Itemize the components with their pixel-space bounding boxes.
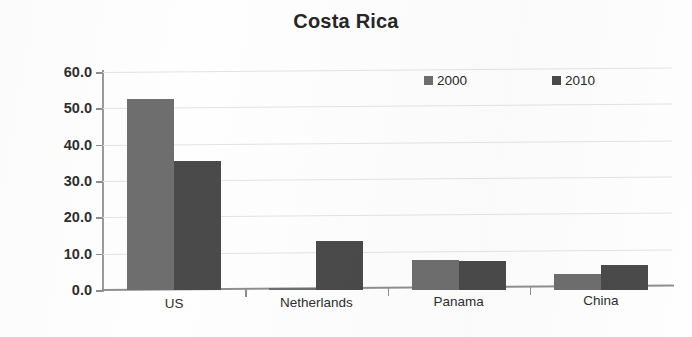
legend-swatch-icon [552, 76, 561, 85]
bar-us-2010 [174, 161, 221, 290]
legend-label: 2000 [437, 73, 467, 88]
x-axis-label-us: US [165, 296, 184, 311]
gridline [103, 140, 672, 145]
plot-area [103, 72, 672, 290]
bar-china-2010 [601, 265, 648, 290]
y-axis-tick-label: 40.0 [40, 137, 92, 153]
x-axis-tick-mark [245, 289, 247, 297]
bar-panama-2010 [459, 261, 506, 290]
bar-panama-2000 [412, 260, 459, 290]
y-axis-labels: 60.050.040.030.020.010.00.0 [40, 0, 92, 337]
bar-china-2000 [554, 274, 601, 290]
gridline [103, 104, 672, 109]
y-axis-tick-label: 10.0 [40, 246, 92, 262]
y-axis-tick-label: 60.0 [40, 64, 92, 80]
x-axis-label-netherlands: Netherlands [280, 295, 353, 310]
y-axis-tick-label: 0.0 [40, 282, 92, 298]
legend-label: 2010 [565, 73, 595, 88]
y-axis-tick-label: 50.0 [40, 100, 92, 116]
y-axis-tick-label: 20.0 [40, 209, 92, 225]
legend-swatch-icon [424, 76, 433, 85]
bar-netherlands-2010 [316, 241, 363, 290]
legend-entry-2000[interactable]: 2000 [424, 73, 467, 88]
chart-title: Costa Rica [0, 10, 692, 33]
x-axis-label-china: China [583, 293, 618, 308]
x-axis-tick-mark [530, 287, 532, 295]
legend-entry-2010[interactable]: 2010 [552, 73, 595, 88]
bar-chart: Costa Rica 60.050.040.030.020.010.00.0 U… [0, 0, 692, 337]
x-axis-tick-mark [388, 288, 390, 296]
y-axis-tick-label: 30.0 [40, 173, 92, 189]
bar-netherlands-2000 [269, 288, 316, 290]
bar-us-2000 [127, 99, 174, 290]
x-axis-label-panama: Panama [433, 294, 483, 309]
